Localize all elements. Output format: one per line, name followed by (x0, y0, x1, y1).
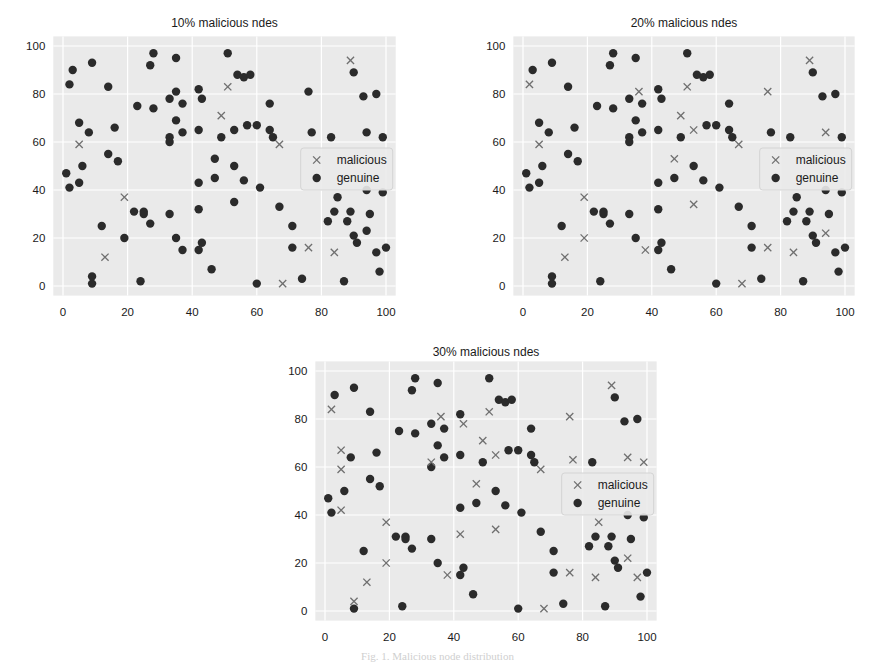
genuine-point (359, 547, 367, 555)
genuine-point (130, 207, 138, 215)
genuine-point (548, 272, 556, 280)
genuine-point (789, 207, 797, 215)
genuine-point (194, 205, 202, 213)
genuine-point (65, 183, 73, 191)
chart-title: 10% malicious ndes (171, 16, 278, 30)
genuine-point (537, 528, 545, 536)
genuine-point (359, 92, 367, 100)
genuine-point (638, 99, 646, 107)
x-tick-label: 40 (645, 306, 658, 318)
genuine-point (104, 150, 112, 158)
genuine-point (525, 183, 533, 191)
genuine-point (564, 150, 572, 158)
genuine-point (793, 193, 801, 201)
genuine-point (269, 133, 277, 141)
genuine-point (366, 210, 374, 218)
genuine-point (382, 243, 390, 251)
x-tick-label: 100 (835, 306, 854, 318)
legend-label-malicious: malicious (598, 478, 648, 492)
y-tick-label: 0 (39, 280, 45, 292)
genuine-point (559, 600, 567, 608)
genuine-point (165, 95, 173, 103)
genuine-point (347, 453, 355, 461)
genuine-point (638, 128, 646, 136)
genuine-point (288, 243, 296, 251)
genuine-point (725, 99, 733, 107)
genuine-point (527, 451, 535, 459)
genuine-point (712, 279, 720, 287)
genuine-point (427, 420, 435, 428)
genuine-point (350, 604, 358, 612)
legend-label-malicious: malicious (796, 153, 846, 167)
genuine-point (62, 169, 70, 177)
genuine-point (514, 604, 522, 612)
genuine-point (809, 231, 817, 239)
genuine-point (545, 128, 553, 136)
x-tick-label: 60 (710, 306, 723, 318)
genuine-point (366, 408, 374, 416)
genuine-point (585, 542, 593, 550)
genuine-point (601, 602, 609, 610)
y-tick-label: 40 (33, 184, 46, 196)
genuine-point (327, 508, 335, 516)
x-tick-label: 80 (576, 631, 589, 643)
x-tick-label: 20 (121, 306, 134, 318)
genuine-point (456, 504, 464, 512)
genuine-point (140, 210, 148, 218)
x-tick-label: 100 (637, 631, 656, 643)
genuine-point (799, 277, 807, 285)
genuine-point (85, 128, 93, 136)
genuine-point (834, 267, 842, 275)
genuine-point (522, 169, 530, 177)
genuine-point (240, 176, 248, 184)
genuine-point (677, 133, 685, 141)
genuine-point (398, 602, 406, 610)
y-tick-label: 0 (499, 280, 505, 292)
genuine-point (395, 427, 403, 435)
x-tick-label: 100 (376, 306, 395, 318)
genuine-point (657, 95, 665, 103)
scatter-panel-30pct: 02040608010002040608010030% malicious nd… (260, 325, 680, 645)
genuine-point (812, 239, 820, 247)
genuine-point (627, 535, 635, 543)
genuine-point (557, 222, 565, 230)
genuine-point (411, 374, 419, 382)
genuine-point (350, 68, 358, 76)
genuine-point (548, 59, 556, 67)
genuine-point (636, 592, 644, 600)
genuine-point (211, 174, 219, 182)
genuine-point (620, 417, 628, 425)
y-tick-label: 100 (486, 40, 505, 52)
x-tick-label: 0 (520, 306, 526, 318)
genuine-point (376, 482, 384, 490)
genuine-point (178, 99, 186, 107)
genuine-point (735, 203, 743, 211)
genuine-point (172, 234, 180, 242)
y-tick-label: 0 (301, 605, 307, 617)
genuine-point (65, 80, 73, 88)
genuine-point (472, 499, 480, 507)
genuine-point (643, 568, 651, 576)
genuine-point (786, 133, 794, 141)
legend-genuine-marker-icon (312, 174, 320, 182)
genuine-point (372, 90, 380, 98)
genuine-point (401, 535, 409, 543)
genuine-point (783, 217, 791, 225)
y-tick-label: 20 (33, 232, 46, 244)
y-tick-label: 80 (295, 413, 308, 425)
x-tick-label: 60 (512, 631, 525, 643)
genuine-point (149, 104, 157, 112)
genuine-point (194, 126, 202, 134)
genuine-point (699, 176, 707, 184)
genuine-point (68, 66, 76, 74)
genuine-point (606, 61, 614, 69)
genuine-point (224, 49, 232, 57)
legend-label-genuine: genuine (796, 171, 839, 185)
genuine-point (327, 133, 335, 141)
y-tick-label: 60 (295, 461, 308, 473)
genuine-point (574, 157, 582, 165)
genuine-point (604, 542, 612, 550)
genuine-point (809, 68, 817, 76)
genuine-point (375, 267, 383, 275)
genuine-point (120, 234, 128, 242)
